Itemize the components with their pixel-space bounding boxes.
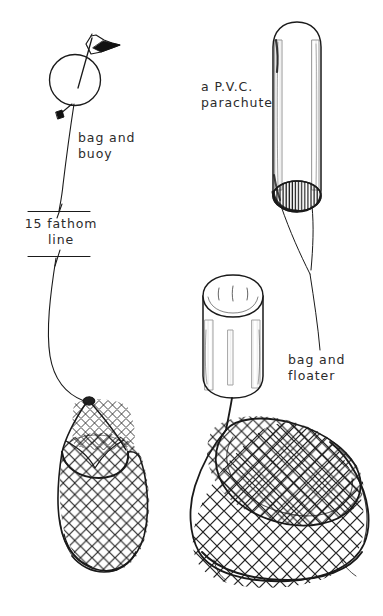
buoy-flag-icon — [78, 34, 120, 88]
label-bag-and-floater: bag and floater — [288, 352, 345, 384]
net-bag-left — [50, 392, 165, 580]
parachute-mouth — [273, 181, 321, 211]
label-bag-and-buoy: bag and buoy — [78, 130, 135, 162]
floater-cylinder — [203, 275, 263, 398]
buoy-line-upper — [59, 104, 74, 211]
pvc-parachute — [273, 22, 321, 350]
buoy-float — [50, 55, 101, 106]
diagram-canvas — [0, 0, 383, 616]
label-15-fathom-line: 15 fathom line — [11, 216, 111, 248]
buoy-weight — [56, 104, 72, 119]
buoy-line-lower — [48, 258, 84, 401]
label-pvc-parachute: a P.V.C. parachute — [201, 79, 273, 111]
fishing-gear-diagram: bag and buoy 15 fathom line a P.V.C. par… — [0, 0, 383, 616]
net-bag-right — [185, 408, 375, 590]
